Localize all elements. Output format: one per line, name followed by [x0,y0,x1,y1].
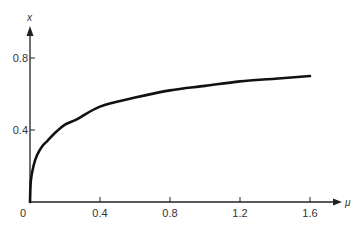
y-axis-label: x [26,12,33,23]
chart: μ x 0 0.40.81.21.60.40.8 [0,0,363,226]
series [30,76,310,202]
origin-label: 0 [20,207,26,219]
x-axis-label: μ [344,197,351,208]
x-tick-label: 1.6 [302,207,317,219]
y-tick-label: 0.4 [13,124,28,136]
series-line [30,76,310,202]
axes: μ x 0 [20,12,351,219]
x-tick-label: 0.4 [92,207,107,219]
ticks: 0.40.81.21.60.40.8 [13,52,318,219]
y-axis-arrow-icon [27,26,34,36]
x-axis-arrow-icon [333,199,342,206]
x-tick-label: 1.2 [232,207,247,219]
x-tick-label: 0.8 [162,207,177,219]
y-tick-label: 0.8 [13,52,28,64]
